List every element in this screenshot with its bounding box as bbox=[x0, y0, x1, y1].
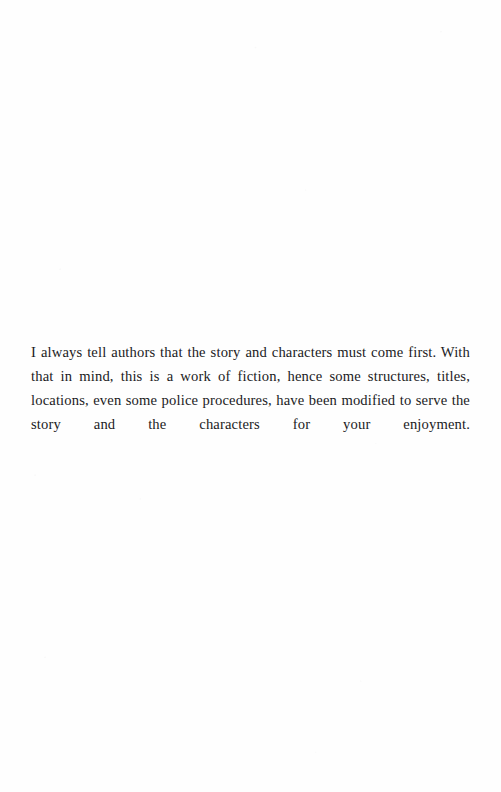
book-page: I always tell authors that the story and… bbox=[0, 0, 501, 792]
author-note-paragraph: I always tell authors that the story and… bbox=[31, 340, 470, 460]
disclaimer-text-block: I always tell authors that the story and… bbox=[31, 340, 470, 460]
